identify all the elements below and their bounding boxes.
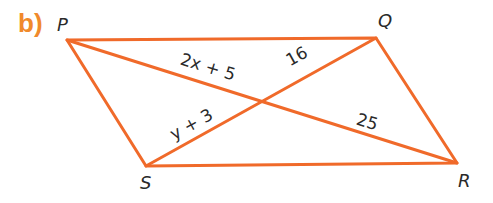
vertex-label-r: R — [458, 170, 471, 191]
vertex-label-q: Q — [378, 10, 392, 31]
vertex-label-p: P — [57, 14, 68, 35]
parallelogram-diagram — [0, 0, 493, 203]
vertex-label-s: S — [140, 172, 151, 193]
